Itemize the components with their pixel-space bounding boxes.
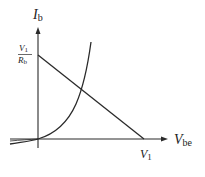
x-axis-label: Vbe <box>174 132 193 148</box>
load-line <box>38 55 144 139</box>
y-axis-arrow-icon <box>36 27 41 34</box>
x-intercept-label: V1 <box>140 147 152 162</box>
diagram-canvas: Ib V1 Rb Vbe V1 <box>0 0 205 177</box>
x-axis-arrow-icon <box>161 137 168 142</box>
y-intercept-numerator: V1 <box>19 43 29 54</box>
y-axis-label: Ib <box>32 7 43 23</box>
y-intercept-denominator: Rb <box>17 55 28 66</box>
